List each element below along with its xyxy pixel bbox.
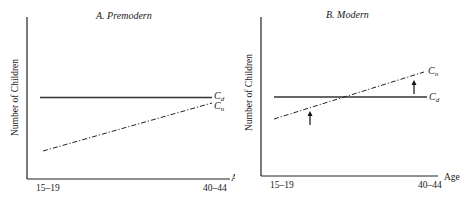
arrow-up-icon: [308, 111, 313, 125]
panel-a-tick-start: 15–19: [36, 184, 60, 194]
panel-b-cn-line: [274, 72, 424, 119]
panel-b-tick-start: 15–19: [270, 181, 294, 191]
panel-b-cn-label: Cn: [428, 66, 438, 78]
panel-b-x-axis-label: Age: [444, 173, 460, 183]
panel-a-x-axis-label: Age: [231, 174, 235, 184]
panel-b-title: B. Modern: [326, 10, 369, 20]
panel-a-title: A. Premodern: [96, 11, 152, 21]
fertility-figure: A. Premodern Number of Children 15–19 40…: [0, 0, 469, 200]
panel-a-cn-line: [43, 103, 212, 151]
panel-a-tick-end: 40–44: [203, 184, 227, 194]
arrow-up-icon: [412, 80, 417, 94]
panel-a-y-axis-label: Number of Children: [11, 59, 21, 136]
panel-b-y-axis-label: Number of Children: [245, 54, 255, 131]
panel-b-cd-label: Cd: [429, 92, 439, 104]
panel-a-cn-label: Cn: [214, 101, 224, 113]
panel-b-tick-end: 40–44: [418, 181, 442, 191]
diagram-graphics: [0, 0, 469, 200]
